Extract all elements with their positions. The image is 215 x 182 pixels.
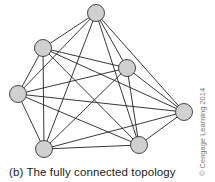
copyright-notice: © Cengage Learning 2014	[198, 88, 207, 176]
node-upper-left	[35, 40, 52, 57]
edge-top-bottom-left	[44, 13, 96, 149]
edge-upper-left-inner-right	[43, 48, 127, 68]
figure-caption: (b) The fully connected topology	[9, 166, 176, 178]
edges	[18, 13, 184, 149]
edge-upper-left-bottom-left	[43, 48, 44, 149]
edge-top-far-right	[96, 13, 184, 112]
edge-inner-right-bottom-left	[44, 68, 127, 149]
edge-inner-right-left	[18, 68, 127, 94]
node-bottom-left	[36, 141, 53, 158]
edge-upper-left-far-right	[43, 48, 184, 112]
node-left	[10, 86, 27, 103]
node-inner-right	[119, 60, 136, 77]
edge-far-right-bottom-left	[44, 112, 184, 149]
edge-left-far-right	[18, 94, 184, 112]
edge-top-upper-left	[43, 13, 96, 48]
edge-left-bottom-right	[18, 94, 139, 145]
edge-top-left	[18, 13, 96, 94]
node-top	[88, 5, 105, 22]
node-bottom-right	[131, 137, 148, 154]
node-far-right	[176, 104, 193, 121]
topology-diagram	[0, 0, 215, 182]
edge-left-bottom-left	[18, 94, 44, 149]
